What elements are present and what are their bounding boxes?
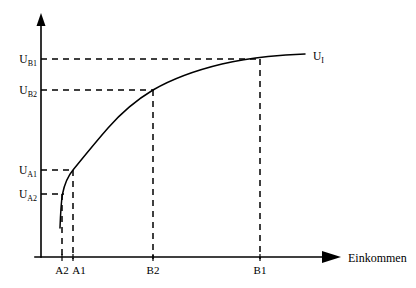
vertical-guides-group xyxy=(62,59,260,259)
utility-income-diagram: UB1 UB2 UA1 UA2 A2 A1 B2 B1 UI Einkommen xyxy=(0,0,416,288)
y-tick-label-ua1: UA1 xyxy=(19,164,37,179)
x-tick-label-a1: A1 xyxy=(72,264,85,276)
y-tick-label-ub1: UB1 xyxy=(19,53,37,68)
x-tick-label-a2: A2 xyxy=(55,264,68,276)
x-axis-title: Einkommen xyxy=(348,251,407,265)
utility-curve-path xyxy=(60,54,305,228)
y-tick-label-ub2: UB2 xyxy=(19,84,37,99)
x-tick-label-b1: B1 xyxy=(254,264,267,276)
x-axis-arrowhead xyxy=(322,251,341,263)
utility-curve-group xyxy=(60,54,305,228)
y-tick-label-ua2: UA2 xyxy=(19,188,37,203)
y-axis-arrowhead xyxy=(37,13,46,26)
x-tick-label-b2: B2 xyxy=(147,264,160,276)
x-tick-labels-group: A2 A1 B2 B1 xyxy=(55,264,266,276)
y-tick-labels-group: UB1 UB2 UA1 UA2 xyxy=(19,53,37,203)
axes-group xyxy=(35,13,341,263)
diagram-canvas: UB1 UB2 UA1 UA2 A2 A1 B2 B1 UI Einkommen xyxy=(0,0,416,288)
curve-label-ui: UI xyxy=(313,50,324,65)
horizontal-guides-group xyxy=(41,59,261,194)
